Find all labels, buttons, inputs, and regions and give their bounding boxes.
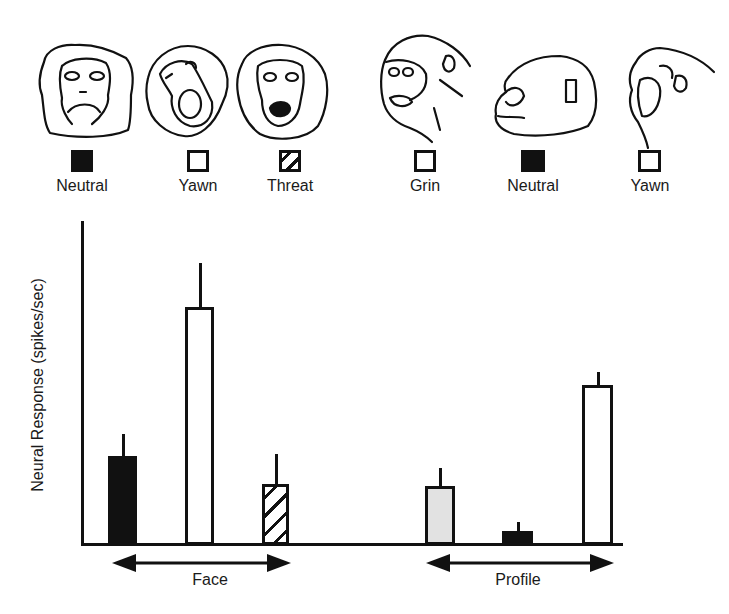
bar-face-threat xyxy=(262,484,289,545)
profile-range-arrow-icon xyxy=(426,554,614,572)
face-yawn-drawing-icon xyxy=(147,46,228,136)
legend-label-profile-grin: Grin xyxy=(380,177,470,195)
y-axis xyxy=(81,221,84,546)
face-neutral-drawing-icon xyxy=(40,45,133,137)
stimulus-drawings xyxy=(0,0,729,150)
face-threat-drawing-icon xyxy=(237,45,327,139)
bar-profile-neutral xyxy=(502,531,533,545)
face-range-arrow-icon xyxy=(112,554,291,572)
error-bar-face-threat xyxy=(275,454,278,484)
bar-profile-yawn xyxy=(582,385,613,545)
legend-swatch-profile-grin xyxy=(414,150,436,172)
error-bar-face-yawn xyxy=(199,263,202,307)
legend-label-profile-neutral: Neutral xyxy=(488,177,578,195)
legend-label-profile-yawn: Yawn xyxy=(605,177,695,195)
legend-swatch-profile-yawn xyxy=(638,150,661,172)
group-label-profile: Profile xyxy=(458,571,578,589)
legend-label-face-neutral: Neutral xyxy=(37,177,127,195)
profile-neutral-drawing-icon xyxy=(496,56,596,136)
error-bar-face-neutral xyxy=(122,434,125,456)
bar-face-neutral xyxy=(108,456,137,545)
group-label-face: Face xyxy=(150,571,270,589)
error-bar-profile-grin xyxy=(439,468,442,486)
bar-profile-grin xyxy=(425,486,455,545)
legend-label-face-threat: Threat xyxy=(245,177,335,195)
y-axis-label: Neural Response (spikes/sec) xyxy=(29,278,47,491)
error-bar-profile-yawn xyxy=(597,372,600,385)
legend-swatch-face-threat xyxy=(279,150,301,172)
legend-swatch-face-neutral xyxy=(71,150,93,172)
legend-label-face-yawn: Yawn xyxy=(153,177,243,195)
profile-grin-drawing-icon xyxy=(381,36,470,142)
x-axis xyxy=(81,543,623,546)
legend-swatch-profile-neutral xyxy=(521,150,545,172)
legend-swatch-face-yawn xyxy=(187,150,209,172)
error-bar-profile-neutral xyxy=(517,522,520,531)
profile-yawn-drawing-icon xyxy=(630,48,714,148)
group-arrows xyxy=(0,550,729,580)
bar-face-yawn xyxy=(185,307,214,545)
